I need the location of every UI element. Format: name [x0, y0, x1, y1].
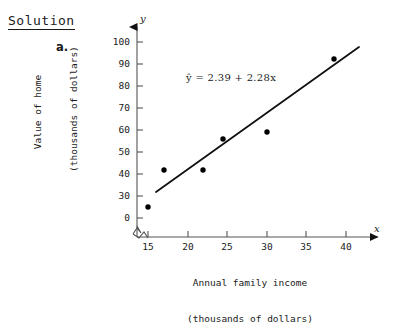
x-axis-title: Annual family income (thousands of dolla…: [150, 253, 350, 327]
x-tick-label-30: 30: [256, 241, 278, 252]
y-tick-label-50: 50: [104, 146, 130, 157]
x-tick-label-25: 25: [216, 241, 238, 252]
y-tick-label-70: 70: [104, 102, 130, 113]
y-axis-variable: y: [140, 13, 146, 24]
x-tick-label-20: 20: [177, 241, 199, 252]
data-point: [145, 204, 150, 209]
data-point: [220, 136, 225, 141]
y-tick-label-100: 100: [104, 36, 130, 47]
y-tick-label-40: 40: [104, 168, 130, 179]
data-point: [161, 167, 166, 172]
regression-equation-annotation: ŷ = 2.39 + 2.28x: [186, 72, 276, 83]
x-axis-title-line2: (thousands of dollars): [150, 313, 350, 325]
y-tick-label-60: 60: [104, 124, 130, 135]
y-tick-label-0: 0: [104, 212, 130, 223]
x-tick-label-40: 40: [335, 241, 357, 252]
y-tick-label-80: 80: [104, 80, 130, 91]
x-axis-title-line1: Annual family income: [150, 277, 350, 289]
x-axis-variable: x: [374, 223, 380, 234]
data-point: [200, 167, 205, 172]
y-axis-ticks: [137, 42, 143, 218]
y-tick-label-90: 90: [104, 58, 130, 69]
x-tick-label-35: 35: [295, 241, 317, 252]
y-tick-label-30: 30: [104, 190, 130, 201]
y-axis-title-line1: Value of home: [32, 52, 44, 172]
regression-line: [156, 47, 359, 192]
y-axis-title-line2: (thousands of dollars): [68, 52, 80, 172]
data-point: [331, 56, 336, 61]
x-tick-label-15: 15: [137, 241, 159, 252]
data-point: [264, 129, 269, 134]
x-axis-ticks: [148, 231, 346, 237]
y-axis-title: Value of home (thousands of dollars): [8, 52, 104, 172]
